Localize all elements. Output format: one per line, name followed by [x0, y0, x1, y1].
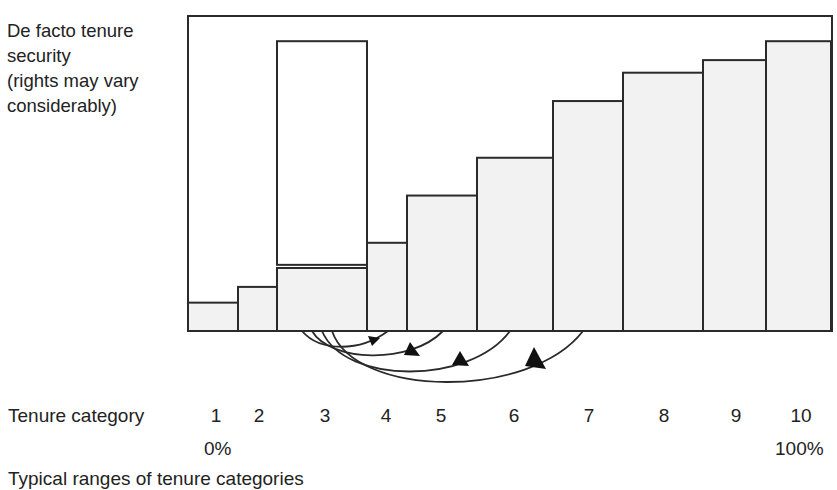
bar-category-9 — [703, 60, 766, 331]
bar-category-7 — [553, 101, 623, 331]
x-axis-title: Tenure category — [8, 405, 144, 427]
tick-label-2: 2 — [254, 405, 265, 427]
arrowhead-icon — [525, 347, 546, 369]
tick-label-1: 1 — [211, 405, 222, 427]
tick-label-3: 3 — [320, 405, 331, 427]
arrowhead-icon — [452, 351, 469, 366]
figure-caption: Typical ranges of tenure categories — [8, 468, 304, 490]
bar-category-8 — [623, 73, 703, 331]
bar-category-6 — [477, 158, 553, 331]
tick-label-10: 10 — [790, 405, 811, 427]
bar-category-2 — [238, 287, 277, 331]
arrowhead-icon — [404, 342, 420, 356]
tick-label-4: 4 — [381, 405, 392, 427]
tick-label-9: 9 — [731, 405, 742, 427]
tick-label-7: 7 — [584, 405, 595, 427]
bar-category-10 — [766, 41, 831, 331]
tenure-chart — [0, 0, 837, 400]
bars-group — [188, 41, 831, 331]
range-box-category-3 — [277, 41, 367, 265]
bar-category-5 — [407, 196, 477, 331]
bar-category-1 — [188, 303, 238, 331]
transition-arrows — [302, 331, 583, 382]
tick-label-6: 6 — [509, 405, 520, 427]
arrow-3-to-5 — [312, 331, 443, 355]
bar-category-3 — [277, 268, 367, 331]
percent-left-label: 0% — [204, 438, 231, 460]
tick-label-8: 8 — [659, 405, 670, 427]
tick-label-5: 5 — [436, 405, 447, 427]
bar-category-4 — [367, 243, 407, 331]
percent-right-label: 100% — [775, 438, 824, 460]
